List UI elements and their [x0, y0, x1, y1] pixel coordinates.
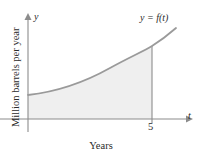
- x-axis-title: Years: [49, 141, 153, 152]
- y-axis-variable-label: y: [34, 12, 38, 22]
- figure-container: Million barrels per year Years y t y = f…: [0, 0, 198, 156]
- x-tick-label-5: 5: [148, 122, 153, 133]
- t-axis-variable-label: t: [188, 111, 191, 121]
- chart-plot-area: [0, 0, 198, 156]
- curve-equation-label: y = f(t): [140, 13, 168, 23]
- y-axis-title: Million barrels per year: [11, 23, 22, 131]
- shaded-area-under-curve: [28, 46, 152, 119]
- y-axis-arrowhead: [25, 13, 32, 20]
